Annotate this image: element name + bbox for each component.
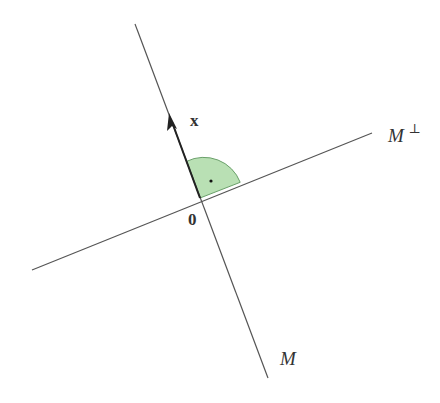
right-angle-dot	[209, 179, 212, 182]
vector-x-label: x	[190, 111, 199, 130]
line-m	[135, 24, 268, 378]
line-m-perp	[32, 133, 372, 270]
line-m-perp-label-sup: ⊥	[409, 121, 421, 136]
line-m-label: M	[279, 348, 297, 369]
vector-x-arrowhead-icon	[167, 113, 177, 131]
line-m-perp-label: M ⊥	[387, 121, 421, 146]
diagram-svg: x 0 M ⊥ M	[0, 0, 440, 403]
right-angle-marker	[187, 157, 241, 198]
line-m-perp-label-base: M	[387, 125, 405, 146]
origin-label: 0	[188, 210, 197, 229]
diagram-canvas: x 0 M ⊥ M	[0, 0, 440, 403]
